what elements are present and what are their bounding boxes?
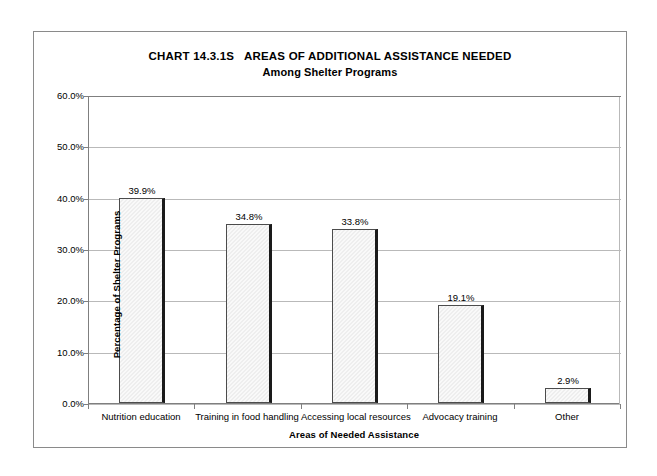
x-axis-category-label: Nutrition education [88, 411, 194, 422]
chart-title: CHART 14.3.1S AREAS OF ADDITIONAL ASSIST… [33, 49, 627, 63]
x-axis-category-label: Other [514, 411, 620, 422]
x-axis-tick-mark [407, 404, 408, 409]
gridline [89, 147, 621, 148]
bar[interactable] [226, 224, 272, 403]
bar-value-label: 19.1% [431, 292, 491, 303]
x-axis-category-labels: Nutrition educationTraining in food hand… [88, 411, 620, 427]
x-axis-category-label: Advocacy training [407, 411, 513, 422]
x-axis-tick-mark [620, 404, 621, 409]
x-axis-title: Areas of Needed Assistance [88, 429, 620, 440]
chart-subtitle: Among Shelter Programs [33, 65, 627, 79]
bar[interactable] [438, 305, 484, 403]
x-axis-tick-mark [88, 404, 89, 409]
y-axis-title: Percentage of Shelter Programs [111, 195, 122, 375]
bar[interactable] [332, 229, 378, 403]
y-axis-tick-marks [0, 96, 88, 404]
plot-area: 39.9%34.8%33.8%19.1%2.9% Percentage of S… [88, 96, 620, 404]
x-axis-tick-mark [514, 404, 515, 409]
bar-value-label: 34.8% [219, 211, 279, 222]
chart-container: CHART 14.3.1S AREAS OF ADDITIONAL ASSIST… [0, 0, 657, 476]
bar[interactable] [119, 198, 165, 403]
x-axis-tick-marks [88, 404, 621, 410]
bar-value-label: 2.9% [538, 375, 598, 386]
gridline [89, 199, 621, 200]
bar-value-label: 33.8% [325, 216, 385, 227]
gridline [89, 96, 621, 97]
x-axis-category-label: Training in food handling [194, 411, 300, 422]
chart-title-block: CHART 14.3.1S AREAS OF ADDITIONAL ASSIST… [33, 49, 627, 79]
x-axis-tick-mark [194, 404, 195, 409]
bar[interactable] [545, 388, 591, 403]
x-axis-category-label: Accessing local resources [301, 411, 407, 422]
x-axis-tick-mark [301, 404, 302, 409]
